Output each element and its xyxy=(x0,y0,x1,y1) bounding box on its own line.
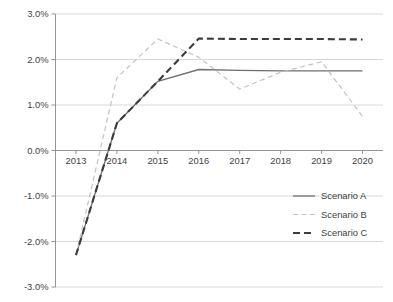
x-tick-label: 2016 xyxy=(188,155,209,166)
legend-label-3: Scenario C xyxy=(321,227,368,238)
y-tick-label: 0.0% xyxy=(27,145,48,156)
x-tick-label: 2015 xyxy=(147,155,168,166)
x-tick-label: 2018 xyxy=(270,155,291,166)
x-tick-label: 2014 xyxy=(106,155,127,166)
x-tick-label: 2020 xyxy=(352,155,373,166)
line-chart: 3.0%2.0%1.0%0.0%-1.0%-2.0%-3.0%201320142… xyxy=(0,0,393,302)
y-tick-label: 1.0% xyxy=(27,99,48,110)
chart-plot-area: 3.0%2.0%1.0%0.0%-1.0%-2.0%-3.0%201320142… xyxy=(0,0,393,302)
y-tick-label: -1.0% xyxy=(24,190,49,201)
legend-label-2: Scenario B xyxy=(321,209,367,220)
y-tick-label: -2.0% xyxy=(24,236,49,247)
x-tick-label: 2019 xyxy=(311,155,332,166)
y-tick-label: 2.0% xyxy=(27,54,48,65)
x-tick-label: 2017 xyxy=(229,155,250,166)
legend-label-1: Scenario A xyxy=(321,190,367,201)
x-tick-label: 2013 xyxy=(66,155,87,166)
chart-title xyxy=(0,0,393,2)
y-tick-label: 3.0% xyxy=(27,8,48,19)
y-tick-label: -3.0% xyxy=(24,281,49,292)
